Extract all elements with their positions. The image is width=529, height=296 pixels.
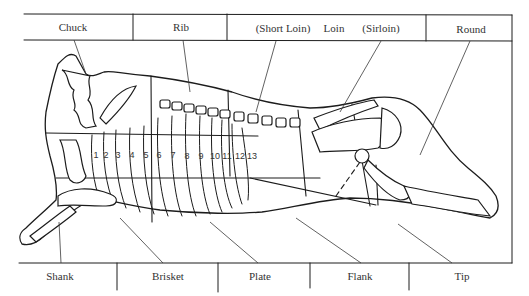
rib-number: 8: [184, 151, 189, 161]
rib-number: 11: [222, 151, 231, 161]
rib-number: 2: [103, 150, 108, 160]
leader-lines: [59, 40, 470, 263]
label-sirloin: (Sirloin): [362, 22, 399, 34]
label-plate: Plate: [249, 270, 271, 282]
rib-number: 1: [93, 150, 98, 160]
rib-number: 9: [198, 151, 203, 161]
label-loin: Loin: [324, 22, 345, 34]
header-label-box: [24, 14, 512, 263]
label-chuck: Chuck: [59, 21, 88, 33]
rib-number: 3: [115, 150, 120, 160]
rib-number: 12: [235, 151, 245, 161]
label-rib: Rib: [173, 21, 189, 33]
rib-number: 7: [170, 150, 175, 160]
rib-number: 10: [210, 151, 220, 161]
rib-number: 4: [129, 150, 134, 160]
label-brisket: Brisket: [152, 270, 184, 282]
label-tip: Tip: [455, 270, 470, 282]
rib-number: 5: [143, 150, 148, 160]
label-round: Round: [456, 23, 485, 35]
beef-cuts-diagram: [0, 0, 529, 296]
label-shank: Shank: [46, 270, 74, 282]
shank-bones: [30, 206, 76, 242]
label-flank: Flank: [347, 270, 372, 282]
chuck-bones: [58, 70, 136, 206]
label-short-loin: (Short Loin): [256, 22, 311, 34]
rib-number: 6: [156, 150, 161, 160]
rib-number: 13: [247, 151, 257, 161]
